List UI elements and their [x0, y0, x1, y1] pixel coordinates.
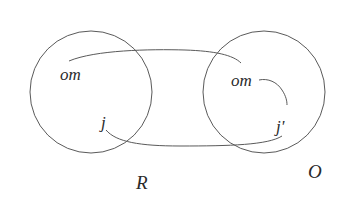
set-label-o: O [308, 161, 322, 182]
element-label-om-right: om [231, 71, 252, 90]
set-label-r: R [135, 172, 148, 193]
connection-om-to-om [69, 50, 241, 63]
element-label-j-prime: j' [274, 117, 285, 136]
connection-j-to-j-prime [106, 130, 282, 146]
element-label-om-left: om [60, 65, 81, 84]
set-r-circle [30, 31, 152, 153]
set-mapping-diagram: om j om j' R O [0, 0, 348, 198]
element-label-j: j [99, 113, 106, 132]
connection-om-to-j-prime [259, 79, 287, 105]
set-o-circle [203, 31, 325, 153]
